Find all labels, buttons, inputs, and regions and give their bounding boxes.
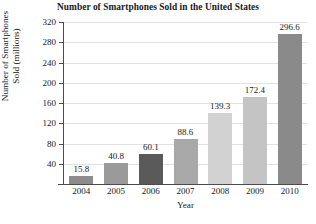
gridline (64, 83, 307, 84)
y-tick-label: 40 (26, 160, 56, 169)
bar (104, 163, 128, 184)
y-axis-label-line-1: Number of Smartphones (0, 0, 11, 136)
gridline (64, 123, 307, 124)
bar (139, 154, 163, 184)
bar-value-label: 40.8 (93, 152, 140, 161)
x-axis-line (58, 184, 308, 185)
y-tick-mark (59, 123, 64, 124)
bar-value-label: 88.6 (162, 128, 209, 137)
y-axis-label: Number of Smartphones Sold (millions) (0, 0, 28, 136)
bar-value-label: 15.8 (58, 165, 105, 174)
y-tick-mark (59, 22, 64, 23)
bar-value-label: 296.6 (266, 23, 313, 32)
y-tick-label: 320 (26, 18, 56, 27)
y-tick-mark (59, 83, 64, 84)
gridline (64, 42, 307, 43)
y-tick-mark (59, 144, 64, 145)
bar-value-label: 139.3 (197, 102, 244, 111)
bar-value-label: 60.1 (127, 143, 174, 152)
y-tick-label: 120 (26, 119, 56, 128)
gridline (64, 63, 307, 64)
y-tick-mark (59, 63, 64, 64)
x-tick-label: 2010 (268, 187, 311, 196)
y-tick-label: 160 (26, 99, 56, 108)
chart-title: Number of Smartphones Sold in the United… (0, 1, 316, 13)
bar (208, 113, 232, 184)
y-axis-label-line-2: Sold (millions) (11, 0, 22, 136)
x-axis-label: Year (64, 200, 307, 210)
y-tick-label: 280 (26, 38, 56, 47)
bar-chart-figure: Number of Smartphones Sold in the United… (0, 0, 316, 224)
bar-value-label: 172.4 (232, 86, 279, 95)
gridline (64, 103, 307, 104)
bar (69, 176, 93, 184)
bar (278, 34, 302, 184)
y-tick-label: 240 (26, 59, 56, 68)
y-tick-mark (59, 42, 64, 43)
bar (243, 97, 267, 184)
y-tick-label: 80 (26, 140, 56, 149)
bar (174, 139, 198, 184)
y-tick-label: 200 (26, 79, 56, 88)
y-tick-mark (59, 103, 64, 104)
